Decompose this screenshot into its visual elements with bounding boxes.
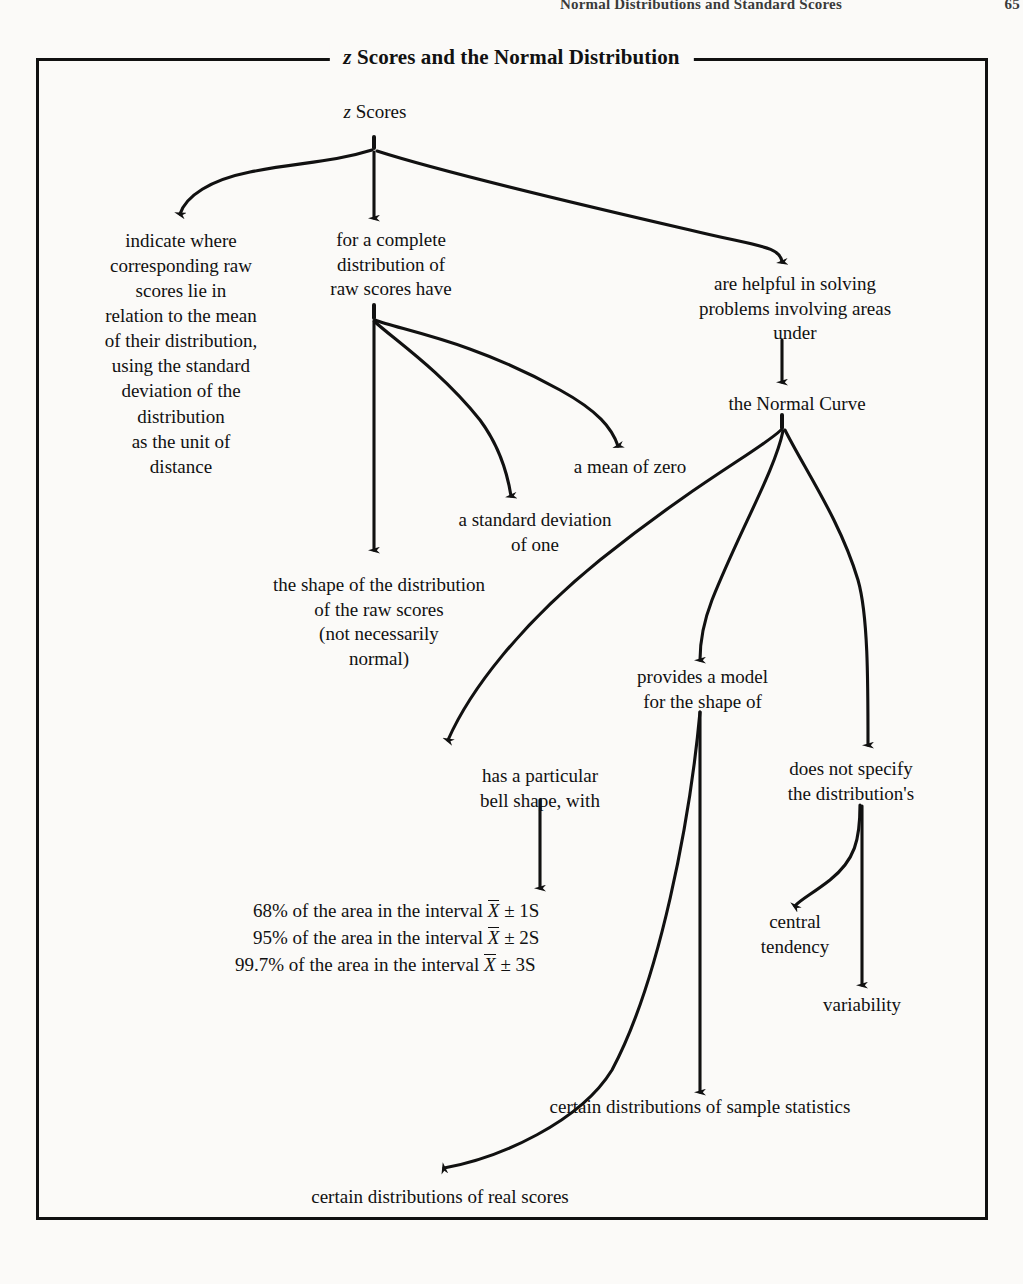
node-root-z: z <box>344 101 351 122</box>
formula-line-1-xbar: X <box>488 900 500 920</box>
figure-page: 65 Normal Distributions and Standard Sco… <box>0 0 1023 1284</box>
running-head-title: Normal Distributions and Standard Scores <box>560 0 842 12</box>
formula-line-2: 95% of the area in the interval X ± 2S <box>253 925 673 952</box>
formula-line-1-pre: 68% of the area in the interval <box>253 900 488 921</box>
formula-line-3: 99.7% of the area in the interval X ± 3S <box>235 952 673 979</box>
formula-line-2-xbar: X <box>488 927 500 947</box>
node-central-tendency: central tendency <box>700 910 890 959</box>
page-number: 65 <box>1005 0 1020 12</box>
node-root: z Scores <box>300 100 450 125</box>
node-provides-a-model: provides a model for the shape of <box>600 665 805 714</box>
node-mean-of-zero: a mean of zero <box>525 455 735 480</box>
formula-line-3-post: ± 3S <box>496 954 536 975</box>
figure-title: z Scores and the Normal Distribution <box>329 44 693 70</box>
node-indicate-where: indicate where corresponding raw scores … <box>62 228 300 479</box>
node-are-helpful: are helpful in solving problems involvin… <box>650 272 940 346</box>
formula-line-2-post: ± 2S <box>499 927 539 948</box>
running-head: 65 Normal Distributions and Standard Sco… <box>560 0 1020 12</box>
node-standard-deviation-of-one: a standard deviation of one <box>410 508 660 557</box>
node-real-scores: certain distributions of real scores <box>200 1185 680 1210</box>
node-bell-shape: has a particular bell shape, with <box>435 764 645 813</box>
node-normal-curve: the Normal Curve <box>682 392 912 417</box>
node-shape-of-distribution: the shape of the distribution of the raw… <box>224 573 534 672</box>
formula-line-2-pre: 95% of the area in the interval <box>253 927 488 948</box>
node-variability: variability <box>772 993 952 1018</box>
formula-line-1-post: ± 1S <box>499 900 539 921</box>
figure-title-rest: Scores and the Normal Distribution <box>352 45 680 69</box>
node-sample-statistics: certain distributions of sample statisti… <box>460 1095 940 1120</box>
formula-block: 68% of the area in the interval X ± 1S 9… <box>253 898 673 979</box>
formula-line-3-pre: 99.7% of the area in the interval <box>235 954 484 975</box>
node-for-a-complete: for a complete distribution of raw score… <box>296 228 486 302</box>
node-does-not-specify: does not specify the distribution's <box>745 757 957 806</box>
formula-line-1: 68% of the area in the interval X ± 1S <box>253 898 673 925</box>
formula-line-3-xbar: X <box>484 954 496 974</box>
node-root-rest: Scores <box>351 101 406 122</box>
